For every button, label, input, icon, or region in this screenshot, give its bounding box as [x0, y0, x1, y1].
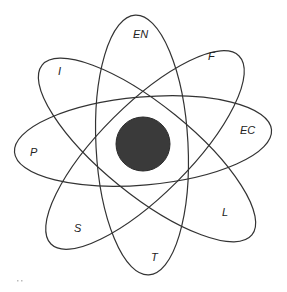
label-i: I	[58, 65, 61, 77]
label-t: T	[151, 251, 159, 263]
scan-artifact	[21, 280, 23, 282]
label-l: L	[222, 206, 228, 218]
flower-venn-diagram: ENFIECPLST	[0, 0, 287, 292]
central-core-circle	[116, 117, 170, 171]
label-s: S	[74, 222, 82, 234]
label-en: EN	[133, 28, 148, 40]
scan-artifact	[17, 280, 19, 282]
label-p: P	[30, 146, 38, 158]
label-ec: EC	[240, 124, 255, 136]
